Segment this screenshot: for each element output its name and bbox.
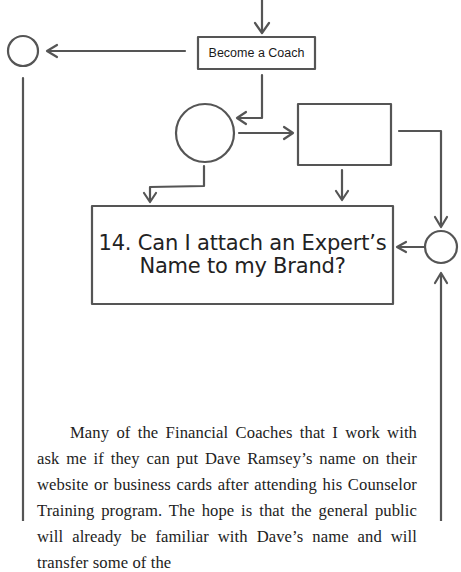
arrow-to-left-circle bbox=[47, 45, 185, 57]
body-paragraph: Many of the Financial Coaches that I wor… bbox=[37, 420, 417, 572]
arrow-circle-to-rect bbox=[239, 127, 293, 139]
arrow-circle-to-main bbox=[144, 166, 204, 202]
become-coach-label: Become a Coach bbox=[198, 37, 315, 69]
arrow-rect-to-right-circle bbox=[399, 131, 447, 227]
left-circle-node bbox=[8, 36, 38, 66]
chapter-title: 14. Can I attach an Expert’s Name to my … bbox=[92, 206, 393, 304]
chapter-title-line1: 14. Can I attach an Expert’s bbox=[99, 232, 387, 255]
arrow-rect-to-main bbox=[336, 170, 348, 200]
middle-circle-node bbox=[176, 104, 234, 162]
empty-rect-node bbox=[298, 104, 391, 165]
chapter-title-line2: Name to my Brand? bbox=[139, 255, 345, 278]
arrow-up-to-right-circle bbox=[435, 273, 447, 521]
arrow-right-circle-to-main bbox=[397, 242, 424, 252]
right-circle-node bbox=[425, 231, 457, 263]
arrow-to-middle-circle bbox=[237, 75, 262, 124]
arrow-into-become-coach bbox=[255, 0, 269, 33]
